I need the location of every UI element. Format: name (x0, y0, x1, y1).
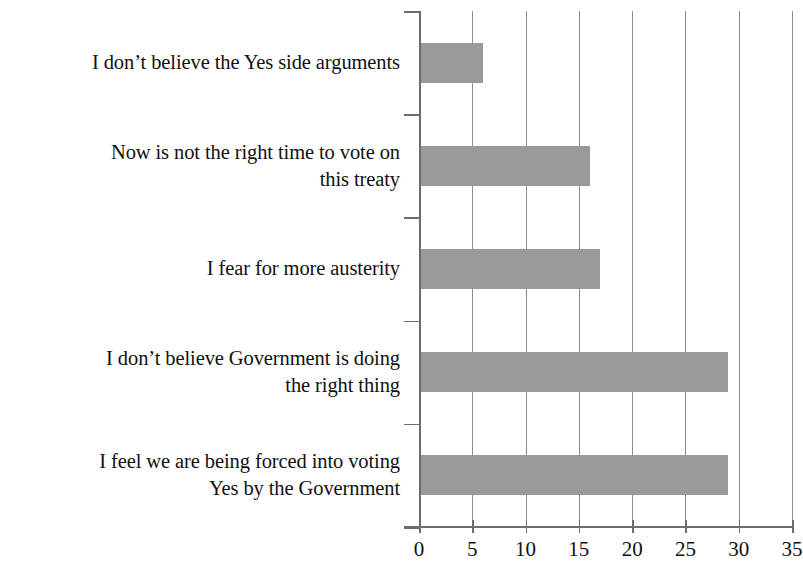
x-axis-tick-35 (792, 520, 794, 533)
x-axis-tick-label-5: 5 (467, 536, 478, 562)
category-label-3-line-1: the right thing (0, 372, 400, 399)
x-axis-tick-label-0: 0 (414, 536, 425, 562)
category-label-0-line-0: I don’t believe the Yes side arguments (0, 49, 400, 76)
y-axis-tick-5 (404, 527, 419, 529)
category-label-3-line-0: I don’t believe Government is doing (0, 345, 400, 372)
gridline-25 (685, 11, 686, 527)
x-axis-tick-label-30: 30 (728, 536, 749, 562)
x-axis-tick-labels: 05101520253035 (0, 536, 797, 568)
y-axis-tick-3 (404, 321, 419, 323)
category-label-2: I fear for more austerity (0, 217, 405, 320)
category-label-4-line-0: I feel we are being forced into voting (0, 448, 400, 475)
gridline-30 (739, 11, 740, 527)
y-axis-tick-2 (404, 217, 419, 219)
category-label-4-line-1: Yes by the Government (0, 475, 400, 502)
category-label-3: I don’t believe Government is doing the … (0, 321, 405, 424)
x-axis-tick-label-25: 25 (675, 536, 696, 562)
bar-0 (419, 43, 483, 83)
category-label-2-line-0: I fear for more austerity (0, 255, 400, 282)
x-axis-tick-5 (472, 520, 474, 533)
plot-area (419, 11, 792, 527)
y-axis-tick-1 (404, 114, 419, 116)
x-axis-tick-label-15: 15 (568, 536, 589, 562)
category-label-1-line-1: this treaty (0, 166, 400, 193)
x-axis-tick-20 (632, 520, 634, 533)
x-axis-tick-30 (739, 520, 741, 533)
bar-2 (419, 249, 600, 289)
category-label-0: I don’t believe the Yes side arguments (0, 11, 405, 114)
x-axis-line (404, 526, 794, 528)
x-axis-tick-label-20: 20 (622, 536, 643, 562)
x-axis-tick-15 (579, 520, 581, 533)
bar-1 (419, 146, 590, 186)
x-axis-tick-10 (526, 520, 528, 533)
x-axis-tick-25 (685, 520, 687, 533)
x-axis-tick-label-10: 10 (515, 536, 536, 562)
category-label-1-line-0: Now is not the right time to vote on (0, 139, 400, 166)
x-axis-tick-0 (419, 520, 421, 533)
x-axis-tick-label-35: 35 (782, 536, 803, 562)
y-axis-line (419, 11, 421, 527)
y-axis-tick-0 (404, 11, 419, 13)
bar-4 (419, 455, 728, 495)
y-axis-tick-4 (404, 424, 419, 426)
bar-3 (419, 352, 728, 392)
gridline-20 (632, 11, 633, 527)
category-label-1: Now is not the right time to vote on thi… (0, 114, 405, 217)
category-label-column: I don’t believe the Yes side arguments N… (0, 11, 408, 527)
gridline-35 (792, 11, 793, 527)
category-label-4: I feel we are being forced into voting Y… (0, 424, 405, 527)
